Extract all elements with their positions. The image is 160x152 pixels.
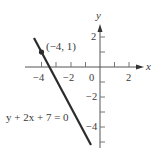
x-tick-label: 0	[89, 73, 94, 84]
y-tick-label: −2	[86, 92, 97, 103]
point-marker	[39, 49, 44, 54]
x-tick-label: −2	[63, 73, 74, 84]
y-ticks	[100, 37, 105, 142]
x-axis-arrow-icon	[136, 65, 144, 70]
point-label: (−4, 1)	[46, 41, 76, 52]
x-tick-label: −4	[33, 73, 44, 84]
y-axis-arrow-icon	[98, 24, 103, 32]
y-tick-label: −4	[86, 122, 97, 133]
coordinate-plane	[0, 0, 160, 152]
y-axis-label: y	[96, 10, 101, 21]
equation-label: y + 2x + 7 = 0	[6, 112, 69, 123]
x-tick-label: 2	[126, 73, 131, 84]
x-ticks	[42, 62, 130, 67]
y-tick-label: 2	[91, 32, 96, 43]
x-axis-label: x	[146, 61, 151, 72]
